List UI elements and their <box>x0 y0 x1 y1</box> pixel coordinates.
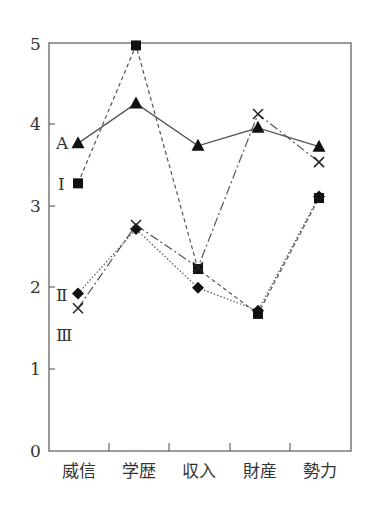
diamond-marker-icon <box>192 282 204 294</box>
square-marker-icon <box>193 264 203 274</box>
y-tick-label: 0 <box>30 441 41 461</box>
triangle-marker-icon <box>72 136 85 148</box>
x-marker-icon <box>314 157 324 167</box>
line-chart: 0 1 2 3 4 5 威信 学歴 収入 財産 勢力 A Ⅰ Ⅱ Ⅲ <box>0 0 374 515</box>
series-label-ii: Ⅱ <box>56 285 68 305</box>
series-layer <box>72 40 326 318</box>
y-tick-label: 4 <box>30 114 41 134</box>
y-tick-label: 1 <box>30 359 41 379</box>
x-category-label: 勢力 <box>303 461 337 481</box>
y-axis-ticks <box>49 124 55 369</box>
x-category-label: 学歴 <box>122 461 156 481</box>
y-tick-label: 2 <box>30 277 41 297</box>
y-tick-label: 3 <box>30 196 41 216</box>
triangle-marker-icon <box>130 96 143 108</box>
x-category-label: 財産 <box>243 461 277 481</box>
x-category-label: 威信 <box>62 461 96 481</box>
series-label-iii: Ⅲ <box>56 325 72 345</box>
series-label-a: A <box>55 133 69 153</box>
diamond-marker-icon <box>72 288 84 300</box>
plot-frame <box>49 43 351 451</box>
x-category-label: 収入 <box>182 461 216 481</box>
series-line <box>78 196 319 310</box>
y-tick-label: 5 <box>30 34 41 54</box>
x-marker-icon <box>73 303 83 313</box>
series-label-i: Ⅰ <box>58 174 65 194</box>
square-marker-icon <box>73 178 83 188</box>
x-axis-ticks <box>109 443 290 451</box>
square-marker-icon <box>131 40 141 50</box>
x-marker-icon <box>253 109 263 119</box>
